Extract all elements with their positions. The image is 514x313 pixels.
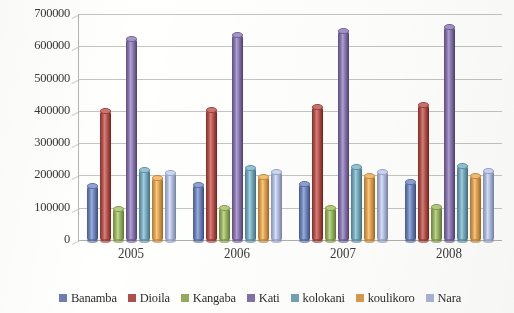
bar-bottom-ellipse [338,239,349,243]
chart-legend: BanambaDioilaKangabaKatikolokanikoulikor… [0,287,514,309]
bar-bottom-ellipse [483,239,494,243]
legend-swatch-icon [356,294,364,302]
bar-bottom-ellipse [87,239,98,243]
legend-label: Banamba [71,290,117,306]
bar-top-ellipse [232,32,243,38]
bar-bottom-ellipse [457,239,468,243]
bar-top-ellipse [139,167,150,173]
bar-bottom-ellipse [113,239,124,243]
bar-nara-2006 [271,171,282,241]
bar-bottom-ellipse [377,239,388,243]
legend-label: Kangaba [193,290,236,306]
bar-bottom-ellipse [245,239,256,243]
y-axis-tick-label: 600000 [34,38,70,54]
legend-item-kolokani[interactable]: kolokani [291,291,345,306]
y-axis-tick-label: 0 [64,232,70,248]
bar-kati-2006 [232,34,243,241]
bar-top-ellipse [418,102,429,108]
bar-bottom-ellipse [126,239,137,243]
bar-nara-2008 [483,170,494,241]
bar-group-2008 [396,14,502,241]
bar-nara-2007 [377,171,388,241]
legend-swatch-icon [426,294,434,302]
bar-banamba-2007 [299,183,310,241]
bar-bottom-ellipse [139,239,150,243]
legend-item-kangaba[interactable]: Kangaba [181,291,236,306]
bar-chart: 0100000200000300000400000500000600000700… [0,0,514,313]
bar-kati-2008 [444,26,455,241]
x-axis-tick-label: 2008 [396,245,502,272]
y-axis-tick-label: 700000 [34,6,70,22]
y-axis-tick-labels: 0100000200000300000400000500000600000700… [0,0,76,240]
bar-bottom-ellipse [232,239,243,243]
legend-swatch-icon [247,294,255,302]
bar-top-ellipse [457,163,468,169]
legend-label: Kati [259,290,280,306]
bar-dioila-2007 [312,106,323,241]
bar-kolokani-2007 [351,166,362,241]
bar-bottom-ellipse [418,239,429,243]
bar-top-ellipse [483,168,494,174]
bar-top-ellipse [193,182,204,188]
bar-top-ellipse [126,36,137,42]
x-axis-tick-label: 2005 [78,245,184,272]
bar-top-ellipse [364,173,375,179]
legend-label: Dioila [140,290,170,306]
bar-top-ellipse [206,107,217,113]
legend-item-kati[interactable]: Kati [247,291,280,306]
bar-kati-2005 [126,38,137,241]
bar-bottom-ellipse [431,239,442,243]
bar-koulikoro-2007 [364,175,375,241]
bar-top-ellipse [377,169,388,175]
legend-label: Nara [438,290,462,306]
bar-top-ellipse [444,24,455,30]
y-axis-tick-label: 400000 [34,102,70,118]
bar-dioila-2008 [418,104,429,241]
bar-koulikoro-2005 [152,177,163,241]
bar-groups [78,14,502,241]
legend-item-koulikoro[interactable]: koulikoro [356,291,415,306]
bar-top-ellipse [431,204,442,210]
bar-top-ellipse [405,179,416,185]
bar-bottom-ellipse [165,239,176,243]
bar-bottom-ellipse [299,239,310,243]
bar-kangaba-2006 [219,207,230,241]
bar-bottom-ellipse [152,239,163,243]
bar-bottom-ellipse [444,239,455,243]
bar-top-ellipse [219,205,230,211]
bar-top-ellipse [87,183,98,189]
legend-label: kolokani [303,290,345,306]
bar-kangaba-2007 [325,207,336,241]
bar-banamba-2005 [87,185,98,242]
bar-top-ellipse [325,205,336,211]
legend-swatch-icon [59,294,67,302]
legend-item-banamba[interactable]: Banamba [59,291,117,306]
legend-label: koulikoro [368,290,415,306]
bar-top-ellipse [245,165,256,171]
bar-bottom-ellipse [351,239,362,243]
bar-bottom-ellipse [219,239,230,243]
bar-nara-2005 [165,172,176,241]
legend-swatch-icon [291,294,299,302]
bar-bottom-ellipse [206,239,217,243]
bar-dioila-2005 [100,110,111,241]
bar-kolokani-2008 [457,165,468,241]
bar-top-ellipse [100,108,111,114]
bar-kati-2007 [338,30,349,241]
legend-item-nara[interactable]: Nara [426,291,462,306]
bar-bottom-ellipse [193,239,204,243]
x-axis-tick-label: 2007 [290,245,396,272]
bar-bottom-ellipse [271,239,282,243]
bar-top-ellipse [470,173,481,179]
bar-bottom-ellipse [470,239,481,243]
bar-top-ellipse [351,164,362,170]
bar-top-ellipse [338,28,349,34]
bar-bottom-ellipse [325,239,336,243]
y-axis-tick-label: 100000 [34,199,70,215]
bar-top-ellipse [299,181,310,187]
bar-kangaba-2008 [431,206,442,241]
bar-top-ellipse [152,175,163,181]
legend-swatch-icon [128,294,136,302]
bar-top-ellipse [271,169,282,175]
legend-item-dioila[interactable]: Dioila [128,291,170,306]
